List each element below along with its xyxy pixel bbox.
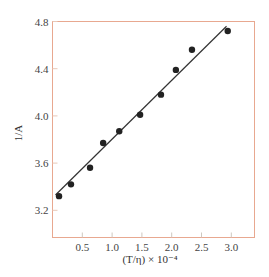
x-tick-label: 1.5	[135, 241, 149, 253]
y-axis-label: 1/A	[12, 125, 24, 142]
data-point	[100, 140, 106, 146]
data-point	[116, 128, 122, 134]
x-axis-label: (T/η) × 10⁻⁴	[122, 253, 177, 266]
plot-frame	[53, 22, 255, 238]
x-tick-label: 2.0	[165, 241, 179, 253]
data-point	[173, 67, 179, 73]
data-point	[158, 91, 164, 97]
y-tick-label: 3.6	[35, 157, 49, 169]
data-point	[87, 165, 93, 171]
data-point	[225, 28, 231, 34]
x-axis-ticks: 0.51.01.52.02.53.0	[75, 233, 238, 253]
scatter-chart: 0.51.01.52.02.53.0 3.23.64.04.44.8 1/A (…	[0, 0, 269, 277]
x-tick-label: 0.5	[75, 241, 89, 253]
y-tick-label: 3.2	[35, 204, 49, 216]
y-axis-ticks: 3.23.64.04.44.8	[35, 16, 58, 217]
data-points	[56, 28, 231, 200]
x-tick-label: 3.0	[224, 241, 238, 253]
fit-line	[55, 26, 226, 195]
regression-line	[55, 26, 226, 195]
y-tick-label: 4.8	[35, 16, 49, 28]
data-point	[137, 112, 143, 118]
y-tick-label: 4.0	[35, 110, 49, 122]
data-point	[56, 193, 62, 199]
x-tick-label: 1.0	[105, 241, 119, 253]
data-point	[68, 181, 74, 187]
x-tick-label: 2.5	[195, 241, 209, 253]
y-tick-label: 4.4	[35, 63, 49, 75]
data-point	[189, 47, 195, 53]
